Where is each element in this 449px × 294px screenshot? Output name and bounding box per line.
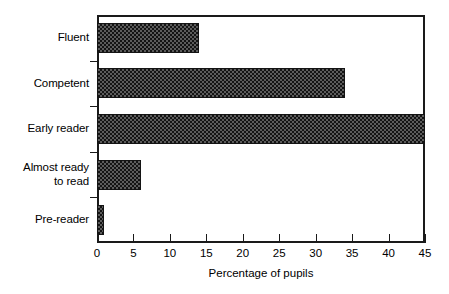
x-tick (97, 234, 98, 243)
x-tick-label: 5 (130, 246, 136, 260)
y-label-pre-reader: Pre-reader (0, 197, 89, 243)
bar-row (97, 197, 104, 243)
bars-layer (97, 15, 425, 243)
y-label-fluent: Fluent (0, 15, 89, 61)
x-tick (389, 234, 390, 243)
bar-almost-ready-to-read (97, 160, 141, 190)
x-tick (425, 234, 426, 243)
x-tick (206, 234, 207, 243)
y-tick (90, 197, 98, 198)
x-axis-tick-labels: 051015202530354045 (97, 246, 425, 262)
bar-competent (97, 68, 345, 98)
x-axis-title: Percentage of pupils (97, 266, 425, 280)
x-tick (170, 234, 171, 243)
bar-chart: Fluent Competent Early reader Almost rea… (0, 0, 449, 294)
bar-row (97, 106, 425, 152)
y-tick (90, 61, 98, 62)
y-axis-category-labels: Fluent Competent Early reader Almost rea… (0, 15, 89, 243)
x-tick (316, 234, 317, 243)
x-tick-label: 25 (273, 246, 286, 260)
x-tick (279, 234, 280, 243)
x-tick-label: 15 (200, 246, 213, 260)
x-tick-label: 10 (163, 246, 176, 260)
x-tick-label: 30 (309, 246, 322, 260)
x-tick-label: 20 (236, 246, 249, 260)
bar-early-reader (97, 114, 425, 144)
bar-row (97, 61, 345, 107)
bar-row (97, 15, 199, 61)
bar-pre-reader (97, 205, 104, 235)
bar-fluent (97, 23, 199, 53)
y-tick (90, 152, 98, 153)
x-tick (133, 234, 134, 243)
x-tick-label: 40 (382, 246, 395, 260)
y-label-almost-ready-to-read: Almost ready to read (0, 152, 89, 198)
x-tick (352, 234, 353, 243)
y-tick (90, 106, 98, 107)
y-label-competent: Competent (0, 61, 89, 107)
y-label-early-reader: Early reader (0, 106, 89, 152)
x-tick (243, 234, 244, 243)
x-tick-label: 0 (94, 246, 100, 260)
bar-row (97, 152, 141, 198)
x-tick-label: 45 (419, 246, 432, 260)
x-tick-label: 35 (346, 246, 359, 260)
